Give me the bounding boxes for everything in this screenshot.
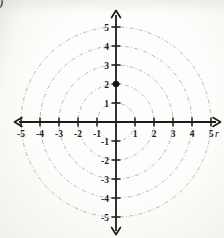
data-point-0 [113,81,119,87]
x-axis-label: r [215,128,219,139]
y-tick-label--3: -3 [101,175,109,185]
x-tick-label-3: 3 [171,129,176,139]
x-tick-label--3: -3 [55,129,63,139]
y-tick-label-5: 5 [104,23,109,33]
y-tick-label-4: 4 [104,42,109,52]
y-tick-label-2: 2 [104,80,109,90]
y-tick-label-3: 3 [104,61,109,71]
x-tick-label-4: 4 [190,129,195,139]
x-tick-label--5: -5 [17,129,25,139]
polar-grid-chart: -5-4-3-2-112345-5-4-3-2-112345r [0,0,224,238]
y-tick-label--4: -4 [101,194,109,204]
x-tick-label-5: 5 [209,129,214,139]
y-tick-label--1: -1 [101,137,109,147]
x-tick-label-1: 1 [133,129,138,139]
y-tick-label--5: -5 [101,213,109,223]
x-tick-label--1: -1 [93,129,101,139]
x-tick-label--4: -4 [36,129,44,139]
scanned-polar-grid-figure: ) -5-4-3-2-112345-5-4-3-2-112345r [0,0,224,238]
y-tick-label--2: -2 [101,156,109,166]
x-tick-label--2: -2 [74,129,82,139]
y-tick-label-1: 1 [104,99,109,109]
x-tick-label-2: 2 [152,129,157,139]
